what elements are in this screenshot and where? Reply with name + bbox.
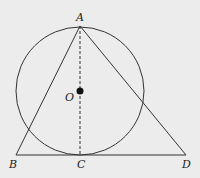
geometry-diagram: A B C D O [0, 0, 200, 178]
label-b: B [8, 158, 17, 171]
label-c: C [77, 158, 86, 171]
label-a: A [75, 11, 84, 24]
label-o: O [65, 91, 74, 104]
label-d: D [181, 158, 191, 171]
center-point-o [77, 88, 84, 95]
segment-ad [80, 26, 186, 155]
